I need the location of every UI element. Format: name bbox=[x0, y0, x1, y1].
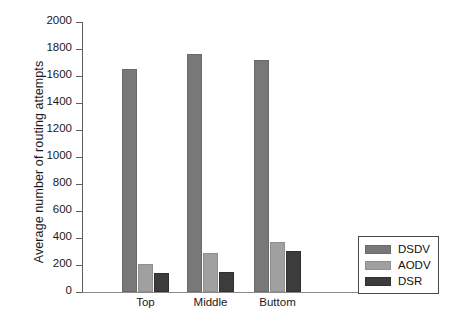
legend-label-aodv: AODV bbox=[398, 260, 431, 271]
x-axis-label-top: Top bbox=[110, 296, 181, 308]
bar-group bbox=[254, 22, 301, 292]
y-axis-tick-label: 1800 bbox=[46, 41, 72, 53]
bar-dsr-top bbox=[154, 273, 169, 292]
y-axis-tick: 400 bbox=[76, 238, 82, 239]
legend-label-dsdv: DSDV bbox=[398, 244, 430, 255]
y-axis-tick: 600 bbox=[76, 211, 82, 212]
legend-swatch-dsr bbox=[365, 277, 391, 286]
legend: DSDV AODV DSR bbox=[358, 236, 439, 294]
bar-dsdv-middle bbox=[187, 54, 202, 292]
y-axis-tick-label: 1600 bbox=[46, 68, 72, 80]
bar-dsr-middle bbox=[219, 272, 234, 292]
bar-dsdv-top bbox=[122, 69, 137, 292]
x-axis-label-buttom: Buttom bbox=[242, 296, 313, 308]
plot-area: 0200400600800100012001400160018002000 To… bbox=[82, 22, 337, 292]
legend-swatch-aodv bbox=[365, 261, 391, 270]
y-axis-tick: 1600 bbox=[76, 76, 82, 77]
y-axis-tick-label: 800 bbox=[53, 176, 72, 188]
y-axis-tick-label: 1400 bbox=[46, 95, 72, 107]
x-axis-line bbox=[82, 292, 362, 293]
legend-item-dsr: DSR bbox=[365, 274, 431, 288]
y-axis-tick: 1000 bbox=[76, 157, 82, 158]
bar-aodv-middle bbox=[203, 253, 218, 292]
y-axis-tick: 1200 bbox=[76, 130, 82, 131]
y-axis-tick: 1400 bbox=[76, 103, 82, 104]
bar-aodv-buttom bbox=[270, 242, 285, 292]
bar-dsdv-buttom bbox=[254, 60, 269, 292]
y-axis-tick: 2000 bbox=[76, 22, 82, 23]
y-axis-title: Average number of routing attempts bbox=[32, 37, 46, 287]
bar-aodv-top bbox=[138, 264, 153, 292]
legend-swatch-dsdv bbox=[365, 245, 391, 254]
y-axis-line bbox=[82, 22, 83, 293]
bar-dsr-buttom bbox=[286, 251, 301, 292]
legend-item-dsdv: DSDV bbox=[365, 242, 431, 256]
bar-chart: Average number of routing attempts 02004… bbox=[0, 0, 464, 335]
y-axis-tick-label: 1200 bbox=[46, 122, 72, 134]
y-axis-tick-label: 1000 bbox=[46, 149, 72, 161]
bar-group bbox=[122, 22, 169, 292]
y-axis-tick: 800 bbox=[76, 184, 82, 185]
y-axis-tick: 1800 bbox=[76, 49, 82, 50]
y-axis-tick-label: 0 bbox=[66, 284, 72, 296]
y-axis-tick-label: 2000 bbox=[46, 14, 72, 26]
y-axis-tick: 0 bbox=[76, 292, 82, 293]
legend-label-dsr: DSR bbox=[398, 276, 422, 287]
y-axis-tick-label: 600 bbox=[53, 203, 72, 215]
legend-item-aodv: AODV bbox=[365, 258, 431, 272]
x-axis-label-middle: Middle bbox=[175, 296, 246, 308]
y-axis-tick-label: 200 bbox=[53, 257, 72, 269]
y-axis-tick: 200 bbox=[76, 265, 82, 266]
y-axis-tick-label: 400 bbox=[53, 230, 72, 242]
bar-group bbox=[187, 22, 234, 292]
